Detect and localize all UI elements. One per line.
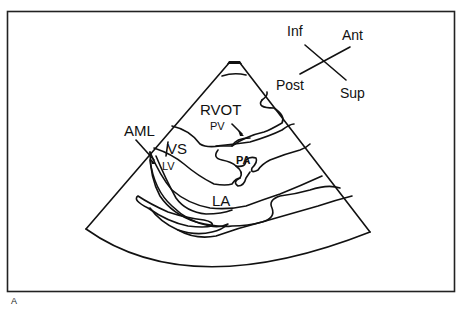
label-aml: AML (124, 122, 155, 139)
orientation-cross: Inf Ant Post Sup (276, 23, 365, 101)
label-inf: Inf (287, 23, 303, 39)
echocardiogram-diagram: Inf Ant Post Sup (0, 0, 471, 310)
label-ant: Ant (342, 27, 363, 43)
figure-frame (8, 12, 455, 292)
label-pa: PA (236, 154, 251, 166)
label-sup: Sup (340, 85, 365, 101)
label-la: LA (212, 192, 230, 209)
label-vs: VS (167, 140, 187, 157)
label-lv: LV (162, 160, 175, 172)
panel-letter: A (11, 296, 17, 306)
structure-labels: RVOT PV AML VS LV PA LA (124, 101, 251, 209)
transducer-icon (227, 61, 242, 64)
pv-arrow-icon (238, 130, 244, 136)
label-pv: PV (210, 120, 225, 132)
label-rvot: RVOT (200, 101, 241, 118)
imaging-sector (86, 61, 370, 267)
label-post: Post (276, 77, 304, 93)
